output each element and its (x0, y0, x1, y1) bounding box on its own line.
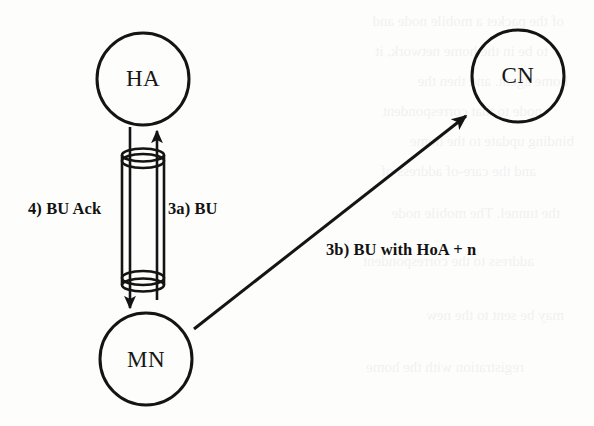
node-label-mn: MN (127, 347, 165, 373)
edge-label-bu-with-hoa: 3b) BU with HoA + n (326, 240, 476, 260)
diagram-canvas: of the packet a mobile node and to be in… (0, 0, 594, 426)
edge-bu-hoa-arrow[interactable] (194, 116, 466, 329)
node-label-cn: CN (502, 63, 535, 89)
edge-label-bu-ack: 4) BU Ack (28, 199, 101, 219)
edge-label-bu: 3a) BU (168, 199, 218, 219)
node-label-ha: HA (126, 66, 160, 92)
